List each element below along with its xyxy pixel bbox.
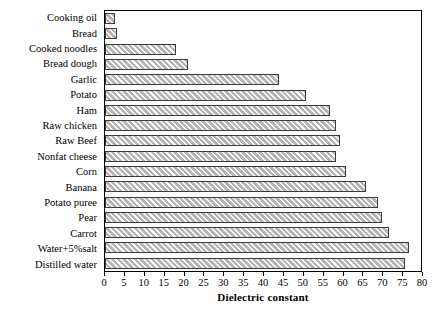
y-axis-label: Cooked noodles	[0, 43, 101, 54]
bar	[105, 28, 117, 39]
bar	[105, 181, 366, 192]
y-axis-label: Bread	[0, 28, 101, 39]
bar-row	[105, 242, 421, 253]
x-axis-tick-label: 20	[178, 276, 189, 289]
x-axis-tick-label: 55	[317, 276, 328, 289]
bar	[105, 74, 279, 85]
bar	[105, 227, 389, 238]
y-axis-label: Distilled water	[0, 259, 101, 270]
x-axis-tick-label: 65	[357, 276, 368, 289]
bar	[105, 105, 330, 116]
bar	[105, 90, 306, 101]
bar	[105, 13, 115, 24]
x-axis-tick-label: 80	[417, 276, 428, 289]
bar-row	[105, 151, 421, 162]
bar-row	[105, 197, 421, 208]
x-axis: 05101520253035404550556065707580	[104, 272, 422, 290]
x-axis-tick-label: 70	[377, 276, 388, 289]
y-axis-label: Nonfat cheese	[0, 151, 101, 162]
y-axis-label: Corn	[0, 166, 101, 177]
bar	[105, 59, 188, 70]
y-axis-label: Bread dough	[0, 58, 101, 69]
bar-row	[105, 44, 421, 55]
bar	[105, 212, 382, 223]
bar-row	[105, 13, 421, 24]
y-axis-label: Potato	[0, 89, 101, 100]
bar	[105, 44, 176, 55]
bar-row	[105, 105, 421, 116]
y-axis-label: Raw Beef	[0, 135, 101, 146]
bar	[105, 242, 409, 253]
plot-area	[104, 10, 422, 272]
x-axis-tick-label: 45	[278, 276, 289, 289]
bar	[105, 135, 340, 146]
bar-row	[105, 212, 421, 223]
y-axis-label: Water+5%salt	[0, 243, 101, 254]
x-axis-tick-label: 10	[139, 276, 150, 289]
bar-row	[105, 28, 421, 39]
dielectric-constant-bar-chart: Cooking oilBreadCooked noodlesBread doug…	[0, 0, 448, 323]
y-axis-label: Banana	[0, 182, 101, 193]
y-axis-label: Raw chicken	[0, 120, 101, 131]
bar-row	[105, 120, 421, 131]
bar-row	[105, 74, 421, 85]
bar-row	[105, 227, 421, 238]
y-axis-label: Garlic	[0, 74, 101, 85]
y-axis-label: Pear	[0, 212, 101, 223]
bar-row	[105, 258, 421, 269]
x-axis-tick-label: 35	[238, 276, 249, 289]
bar	[105, 166, 346, 177]
bar-row	[105, 135, 421, 146]
x-axis-tick-label: 75	[397, 276, 408, 289]
y-axis-label: Carrot	[0, 228, 101, 239]
x-axis-tick-label: 25	[198, 276, 209, 289]
bar	[105, 151, 336, 162]
x-axis-tick-label: 50	[298, 276, 309, 289]
y-axis-label: Potato puree	[0, 197, 101, 208]
bar	[105, 258, 405, 269]
y-axis-label: Cooking oil	[0, 12, 101, 23]
bar	[105, 120, 336, 131]
bar-rows	[105, 11, 421, 271]
bar-row	[105, 59, 421, 70]
y-axis-category-labels: Cooking oilBreadCooked noodlesBread doug…	[0, 10, 101, 272]
bar	[105, 197, 378, 208]
y-axis-label: Ham	[0, 105, 101, 116]
x-axis-title: Dielectric constant	[104, 291, 422, 303]
x-axis-tick-label: 0	[101, 276, 106, 289]
x-axis-tick-label: 5	[121, 276, 126, 289]
x-axis-tick-label: 30	[218, 276, 229, 289]
bar-row	[105, 90, 421, 101]
bar-row	[105, 166, 421, 177]
x-axis-tick-label: 40	[258, 276, 269, 289]
bar-row	[105, 181, 421, 192]
x-axis-tick-label: 15	[158, 276, 169, 289]
x-axis-tick-label: 60	[337, 276, 348, 289]
